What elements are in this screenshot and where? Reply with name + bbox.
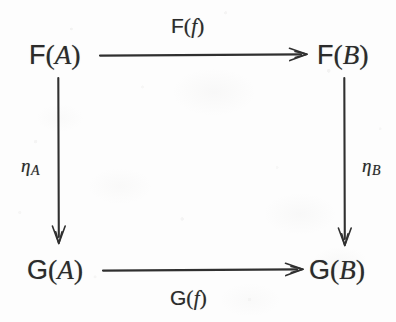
open-paren: ( — [48, 254, 57, 285]
vertex-label-G-of-A: G(A) — [27, 256, 83, 284]
close-paren: ) — [200, 285, 207, 310]
functor-symbol: F — [171, 14, 184, 37]
eta-symbol: η — [21, 155, 30, 176]
arrow-right-FB-to-GB — [338, 78, 351, 246]
open-paren: ( — [46, 39, 55, 70]
eta-subscript: B — [372, 163, 381, 178]
eta-subscript: A — [31, 163, 40, 178]
close-paren: ) — [197, 13, 204, 38]
object-symbol: A — [55, 40, 72, 70]
object-symbol: B — [339, 255, 356, 285]
close-paren: ) — [74, 254, 83, 285]
eta-symbol: η — [362, 155, 371, 176]
arrow-label-eta-B: ηB — [362, 156, 381, 178]
functor-symbol: G — [27, 255, 48, 285]
functor-symbol: G — [309, 255, 330, 285]
close-paren: ) — [356, 254, 365, 285]
arrow-top-FA-to-FB — [100, 48, 307, 60]
arrow-label-eta-A: ηA — [21, 156, 40, 178]
arrow-bottom-GA-to-GB — [103, 263, 303, 275]
functor-symbol: F — [317, 40, 334, 70]
functor-symbol: G — [170, 286, 186, 309]
vertex-label-F-of-B: F(B) — [317, 41, 369, 69]
arrow-label-F-of-f: F(f) — [171, 15, 204, 37]
vertex-label-F-of-A: F(A) — [29, 41, 81, 69]
close-paren: ) — [71, 39, 80, 70]
open-paren: ( — [186, 285, 193, 310]
arrow-left-FA-to-GA — [52, 78, 65, 244]
close-paren: ) — [359, 39, 368, 70]
vertex-label-G-of-B: G(B) — [309, 256, 365, 284]
object-symbol: A — [57, 255, 74, 285]
arrow-label-G-of-f: G(f) — [170, 287, 207, 309]
open-paren: ( — [334, 39, 343, 70]
open-paren: ( — [330, 254, 339, 285]
object-symbol: B — [343, 40, 360, 70]
functor-symbol: F — [29, 40, 46, 70]
diagram-canvas: F(A) F(B) G(A) G(B) F(f) G(f) ηA ηB — [0, 0, 396, 322]
